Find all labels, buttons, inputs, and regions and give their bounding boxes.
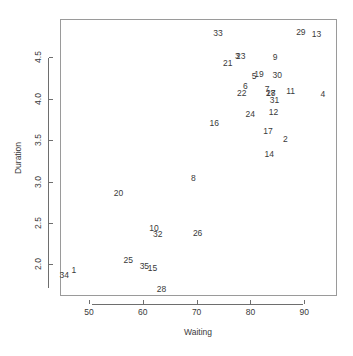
y-axis-tick-label: 3.0	[33, 176, 43, 188]
data-point-label: 13	[312, 30, 321, 39]
data-point-label: 16	[210, 119, 219, 128]
x-axis-tick	[250, 300, 251, 304]
data-point-label: 21	[223, 59, 232, 68]
y-axis-tick-label: 4.0	[33, 93, 43, 105]
data-point-label: 22	[237, 89, 246, 98]
x-axis-tick	[89, 300, 90, 304]
data-point-label: 14	[264, 150, 273, 159]
y-axis-tick	[49, 264, 53, 265]
y-axis-tick	[49, 182, 53, 183]
y-axis-tick-label: 2.5	[33, 217, 43, 229]
data-point-label: 25	[123, 255, 132, 264]
x-axis-title: Waiting	[184, 327, 212, 337]
data-point-label: 11	[286, 87, 295, 96]
y-axis-tick-label: 3.5	[33, 134, 43, 146]
data-point-label: 24	[246, 109, 255, 118]
x-axis-tick-label: 60	[138, 307, 147, 317]
data-point-label: 35	[140, 262, 149, 271]
x-axis-tick	[143, 300, 144, 304]
data-point-label: 31	[270, 95, 279, 104]
data-point-label: 28	[157, 284, 166, 293]
data-point-label: 15	[148, 264, 157, 273]
y-axis-line	[48, 58, 49, 288]
plot-panel: 1234567891011121314151617181920212223242…	[60, 19, 337, 296]
data-point-label: 33	[213, 29, 222, 38]
x-axis-tick-label: 90	[299, 307, 308, 317]
data-point-label: 17	[263, 127, 272, 136]
y-axis-tick	[49, 99, 53, 100]
y-axis-tick	[49, 223, 53, 224]
data-point-label: 29	[296, 27, 305, 36]
data-point-label: 23	[236, 52, 245, 61]
y-axis-tick	[49, 140, 53, 141]
data-point-label: 20	[114, 189, 123, 198]
data-point-label: 34	[59, 271, 68, 280]
x-axis-tick-label: 80	[246, 307, 255, 317]
data-point-label: 2	[283, 135, 288, 144]
data-point-label: 1	[72, 265, 77, 274]
x-axis-tick-label: 50	[84, 307, 93, 317]
x-axis-tick-label: 70	[192, 307, 201, 317]
x-axis-line	[92, 304, 303, 305]
data-point-label: 32	[153, 230, 162, 239]
data-point-label: 9	[273, 53, 278, 62]
y-axis-title: Duration	[13, 142, 23, 174]
data-point-label: 8	[191, 174, 196, 183]
data-point-label: 4	[321, 90, 326, 99]
data-point-label: 12	[269, 108, 278, 117]
y-axis-tick-label: 4.5	[33, 51, 43, 63]
y-axis-tick-label: 2.0	[33, 259, 43, 271]
x-axis-tick	[197, 300, 198, 304]
x-axis-tick	[304, 300, 305, 304]
data-point-label: 30	[272, 70, 281, 79]
scatter-plot-figure: 1234567891011121314151617181920212223242…	[0, 0, 353, 356]
data-point-label: 19	[254, 70, 263, 79]
y-axis-tick	[49, 57, 53, 58]
data-point-label: 26	[193, 229, 202, 238]
